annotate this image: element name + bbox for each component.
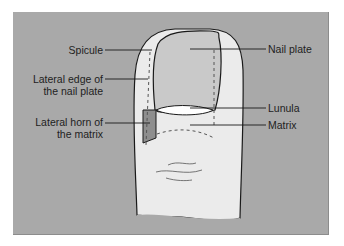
label-spicule-text: Spicule	[69, 44, 103, 56]
label-matrix: Matrix	[268, 119, 297, 131]
label-lateral-horn-line2: the matrix	[16, 128, 103, 140]
label-lateral-edge-line2: the nail plate	[16, 85, 103, 97]
label-lateral-edge-line1: Lateral edge of	[16, 73, 103, 85]
label-spicule: Spicule	[26, 44, 103, 56]
label-lateral-horn-line1: Lateral horn of	[16, 116, 103, 128]
label-lunula: Lunula	[268, 102, 300, 114]
nail-plate-shape	[153, 31, 221, 112]
label-lateral-edge: Lateral edge of the nail plate	[16, 73, 103, 97]
label-nail-plate: Nail plate	[268, 43, 312, 55]
lateral-horn-shape	[143, 110, 156, 143]
label-lateral-horn: Lateral horn of the matrix	[16, 116, 103, 140]
